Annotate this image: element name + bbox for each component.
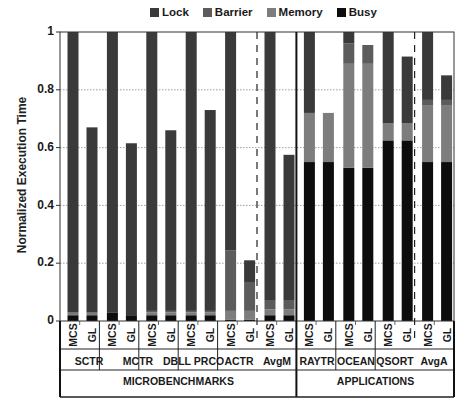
bar-raytr-gl bbox=[323, 113, 334, 321]
config-label-mctr-gl: GL bbox=[125, 327, 137, 343]
segment-busy bbox=[146, 315, 157, 321]
bar-dbll-mcs bbox=[146, 32, 157, 321]
segment-memory bbox=[205, 312, 216, 315]
segment-barrier bbox=[422, 100, 433, 106]
bar-avga-mcs bbox=[422, 32, 433, 321]
config-label-qsort-gl: GL bbox=[401, 327, 413, 343]
segment-lock bbox=[146, 32, 157, 311]
segment-lock bbox=[383, 32, 394, 123]
segment-lock bbox=[422, 32, 433, 100]
segment-lock bbox=[402, 57, 413, 123]
segment-barrier bbox=[186, 311, 197, 312]
segment-lock bbox=[107, 32, 118, 312]
config-label-mctr-mcs: MCS bbox=[106, 322, 118, 348]
bar-actr-mcs bbox=[225, 32, 236, 321]
config-label-dbll-gl: GL bbox=[165, 327, 177, 343]
segment-memory bbox=[186, 312, 197, 315]
benchmark-label-avga: AvgA bbox=[414, 355, 454, 367]
segment-memory bbox=[383, 123, 394, 140]
segment-busy bbox=[304, 162, 315, 321]
config-label-avgm-mcs: MCS bbox=[264, 322, 276, 348]
config-label-ocean-mcs: MCS bbox=[343, 322, 355, 348]
benchmark-label-qsort: QSORT bbox=[375, 355, 415, 367]
segment-busy bbox=[165, 315, 176, 321]
segment-busy bbox=[362, 168, 373, 321]
segment-memory bbox=[422, 106, 433, 162]
segment-busy bbox=[284, 315, 295, 321]
segment-barrier bbox=[87, 312, 98, 313]
config-label-actr-gl: GL bbox=[244, 327, 256, 343]
segment-lock bbox=[205, 110, 216, 311]
config-label-avga-gl: GL bbox=[441, 327, 453, 343]
segment-busy bbox=[107, 312, 118, 321]
segment-barrier bbox=[68, 312, 79, 313]
segment-busy bbox=[186, 315, 197, 321]
segment-barrier bbox=[284, 301, 295, 310]
bar-actr-gl bbox=[244, 260, 255, 321]
config-label-avga-mcs: MCS bbox=[422, 322, 434, 348]
segment-lock bbox=[225, 32, 236, 250]
config-label-qsort-mcs: MCS bbox=[382, 322, 394, 348]
config-label-raytr-gl: GL bbox=[322, 327, 334, 343]
segment-barrier bbox=[165, 311, 176, 312]
segment-memory bbox=[441, 106, 452, 162]
bar-mctr-gl bbox=[126, 143, 137, 321]
config-label-dbll-mcs: MCS bbox=[146, 322, 158, 348]
segment-lock bbox=[165, 130, 176, 311]
benchmark-label-ocean: OCEAN bbox=[336, 355, 376, 367]
segment-lock bbox=[343, 32, 354, 44]
segment-barrier bbox=[146, 311, 157, 312]
benchmark-label-sctr: SCTR bbox=[60, 355, 118, 367]
benchmark-label-actr: ACTR bbox=[219, 355, 259, 367]
bar-avgm-mcs bbox=[265, 32, 276, 321]
segment-memory bbox=[304, 113, 315, 162]
segment-lock bbox=[265, 32, 276, 301]
config-label-sctr-gl: GL bbox=[86, 327, 98, 343]
config-label-sctr-mcs: MCS bbox=[67, 322, 79, 348]
segment-memory bbox=[362, 64, 373, 168]
config-label-prco-mcs: MCS bbox=[185, 322, 197, 348]
segment-lock bbox=[441, 75, 452, 100]
bar-ocean-mcs bbox=[343, 32, 354, 321]
segment-memory bbox=[402, 123, 413, 140]
segment-memory bbox=[343, 64, 354, 168]
segment-busy bbox=[68, 315, 79, 321]
segment-busy bbox=[87, 315, 98, 321]
segment-memory bbox=[68, 314, 79, 315]
segment-busy bbox=[441, 162, 452, 321]
segment-busy bbox=[343, 168, 354, 321]
bar-avgm-gl bbox=[284, 155, 295, 321]
segment-barrier bbox=[225, 250, 236, 311]
segment-lock bbox=[87, 127, 98, 312]
segment-busy bbox=[265, 315, 276, 321]
segment-memory bbox=[265, 309, 276, 315]
segment-barrier bbox=[441, 100, 452, 106]
segment-barrier bbox=[362, 45, 373, 64]
bar-prco-mcs bbox=[186, 32, 197, 321]
segment-memory bbox=[244, 311, 255, 320]
segment-memory bbox=[165, 312, 176, 315]
bar-sctr-gl bbox=[87, 127, 98, 321]
bar-dbll-gl bbox=[165, 130, 176, 321]
segment-memory bbox=[284, 309, 295, 315]
segment-barrier bbox=[343, 44, 354, 64]
config-label-ocean-gl: GL bbox=[362, 327, 374, 343]
segment-lock bbox=[68, 32, 79, 312]
bar-series bbox=[68, 32, 453, 321]
bar-qsort-gl bbox=[402, 57, 413, 321]
segment-lock bbox=[244, 260, 255, 282]
bar-mctr-mcs bbox=[107, 32, 118, 321]
bar-ocean-gl bbox=[362, 45, 373, 321]
segment-busy bbox=[383, 140, 394, 321]
bar-qsort-mcs bbox=[383, 32, 394, 321]
config-label-prco-gl: GL bbox=[204, 327, 216, 343]
bar-raytr-mcs bbox=[304, 32, 315, 321]
group-label-microbenchmarks: MICROBENCHMARKS bbox=[60, 375, 297, 387]
segment-barrier bbox=[265, 301, 276, 310]
bar-avga-gl bbox=[441, 75, 452, 321]
benchmark-label-avgm: AvgM bbox=[257, 355, 297, 367]
segment-barrier bbox=[205, 311, 216, 312]
segment-barrier bbox=[244, 282, 255, 311]
segment-memory bbox=[87, 314, 98, 315]
segment-lock bbox=[126, 143, 137, 315]
